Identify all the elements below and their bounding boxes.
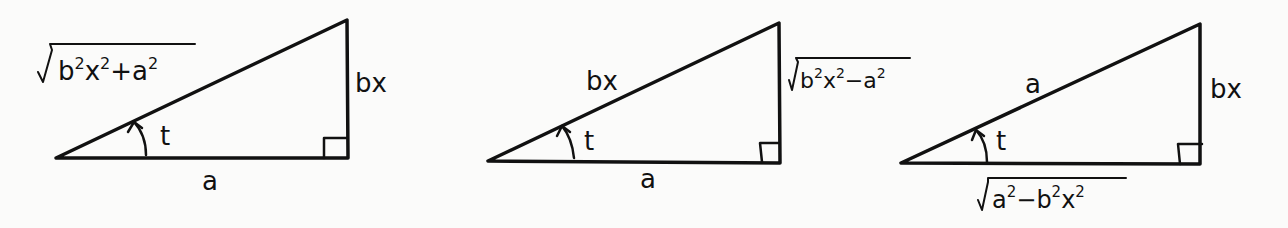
triangles-diagram: t bx a b2x2+a2 t bx a b2x2−a2 t a bx a2−… <box>0 0 1288 228</box>
right-angle-marker <box>760 143 779 162</box>
triangle-3-labels: t a bx a2−b2x2 <box>992 69 1242 214</box>
opposite-label: bx <box>355 68 387 98</box>
adjacent-label: a <box>640 164 656 194</box>
triangle-1 <box>38 20 348 158</box>
triangle-1-labels: t bx a b2x2+a2 <box>58 54 387 196</box>
right-angle-marker <box>324 138 347 158</box>
hypotenuse-label: b2x2+a2 <box>58 54 158 86</box>
triangle-2-outline <box>488 23 780 163</box>
triangle-1-outline <box>56 20 348 158</box>
angle-label: t <box>584 126 594 156</box>
hypotenuse-label: a <box>1025 69 1041 99</box>
angle-label: t <box>160 121 170 151</box>
triangle-3-outline <box>901 24 1200 164</box>
hypotenuse-label: bx <box>586 66 618 96</box>
opposite-label: bx <box>1210 74 1242 104</box>
triangle-2-labels: t bx a b2x2−a2 <box>584 65 886 194</box>
triangle-2 <box>488 23 910 163</box>
angle-label: t <box>996 126 1006 156</box>
opposite-label: b2x2−a2 <box>800 65 886 93</box>
adjacent-label: a <box>202 166 218 196</box>
adjacent-label: a2−b2x2 <box>992 183 1085 214</box>
